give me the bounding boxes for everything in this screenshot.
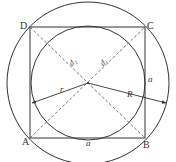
center-point — [87, 82, 89, 84]
diagonal-label-d2: d₂ — [67, 56, 78, 67]
geometry-diagram: D C A B d₂ d₁ a a r R — [0, 0, 176, 162]
vertex-label-d: D — [20, 20, 27, 31]
inner-radius-label: r — [60, 84, 64, 94]
vertex-label-c: C — [147, 20, 154, 31]
side-label-bottom: a — [86, 138, 91, 148]
side-label-right: a — [148, 74, 153, 84]
diagonal-label-d1: d₁ — [98, 56, 109, 67]
vertex-label-b: B — [143, 139, 150, 150]
vertex-label-a: A — [22, 136, 30, 147]
outer-radius-label: R — [126, 89, 133, 99]
